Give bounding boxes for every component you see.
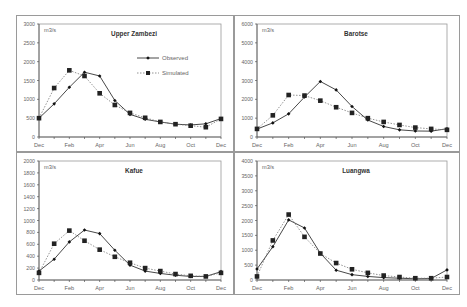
y-tick-label: 500 — [26, 115, 35, 121]
marker-square — [143, 266, 148, 271]
x-tick-label: Oct — [186, 142, 195, 148]
marker-square — [219, 271, 224, 276]
marker-square — [318, 98, 323, 103]
legend: ObservedSimulated — [137, 55, 189, 76]
x-tick-label: Dec — [34, 142, 44, 148]
marker-square — [128, 111, 133, 116]
x-tick-label: Aug — [155, 285, 165, 291]
y-tick-label: 500 — [244, 262, 253, 268]
y-tick-label: 0 — [250, 134, 253, 140]
marker-square — [173, 122, 178, 127]
y-tick-label: 2500 — [241, 203, 253, 209]
y-tick-label: 600 — [26, 241, 35, 247]
chart-panel-luangwa: 05001000150020002500300035004000DecFebAp… — [234, 152, 460, 295]
chart-panel-kafue: 0200400600800100012001400160018002000Dec… — [16, 152, 234, 295]
x-tick-label: Apr — [95, 285, 104, 291]
x-tick-label: Dec — [252, 142, 262, 148]
marker-square — [429, 127, 434, 132]
x-tick-label: Jun — [347, 285, 356, 291]
marker-square — [158, 269, 163, 274]
y-tick-label: 1500 — [23, 78, 35, 84]
y-tick-label: 0 — [250, 277, 253, 283]
marker-square — [429, 276, 434, 281]
unit-label: m3/s — [262, 164, 274, 170]
chart-upper-zambezi: 050010001500200025003000DecFebAprJunAugO… — [17, 16, 235, 153]
series-line-observed — [39, 230, 221, 276]
y-tick-label: 6000 — [241, 21, 253, 27]
legend-observed-icon — [146, 56, 150, 60]
y-tick-label: 800 — [26, 229, 35, 235]
marker-square — [219, 117, 224, 122]
marker-diamond — [445, 268, 449, 272]
y-tick-label: 400 — [26, 253, 35, 259]
marker-square — [143, 115, 148, 120]
x-tick-label: Dec — [442, 142, 452, 148]
y-tick-label: 1200 — [23, 206, 35, 212]
marker-square — [334, 105, 339, 110]
chart-title: Luangwa — [342, 167, 370, 175]
x-tick-label: Dec — [216, 285, 226, 291]
x-tick-label: Dec — [216, 142, 226, 148]
x-tick-label: Jun — [125, 285, 134, 291]
marker-square — [302, 235, 307, 240]
chart-panel-barotse: 0100020003000400050006000DecFebAprJunAug… — [234, 15, 460, 152]
marker-square — [37, 271, 42, 276]
marker-square — [381, 120, 386, 125]
plot-area — [257, 161, 447, 280]
marker-square — [204, 125, 209, 130]
marker-square — [397, 275, 402, 280]
marker-square — [67, 68, 72, 73]
marker-square — [173, 272, 178, 277]
x-tick-label: Oct — [186, 285, 195, 291]
marker-diamond — [382, 125, 386, 129]
marker-square — [445, 128, 450, 133]
x-tick-label: Feb — [284, 142, 294, 148]
legend-simulated-icon — [146, 71, 150, 75]
marker-square — [334, 261, 339, 266]
x-tick-label: Dec — [252, 285, 262, 291]
y-tick-label: 3000 — [241, 78, 253, 84]
y-tick-label: 2500 — [23, 40, 35, 46]
marker-square — [52, 86, 57, 91]
y-tick-label: 2000 — [23, 158, 35, 164]
chart-luangwa: 05001000150020002500300035004000DecFebAp… — [235, 153, 461, 296]
series-line-simulated — [39, 70, 221, 127]
y-tick-label: 1800 — [23, 170, 35, 176]
x-tick-label: Dec — [34, 285, 44, 291]
x-tick-label: Aug — [379, 142, 389, 148]
marker-square — [413, 276, 418, 281]
y-tick-label: 0 — [32, 134, 35, 140]
marker-diamond — [271, 121, 275, 125]
marker-square — [350, 267, 355, 272]
x-tick-label: Jun — [125, 142, 134, 148]
marker-square — [255, 274, 260, 279]
chart-panel-upper-zambezi: 050010001500200025003000DecFebAprJunAugO… — [16, 15, 234, 152]
unit-label: m3/s — [44, 164, 56, 170]
series-line-observed — [39, 72, 221, 125]
y-tick-label: 1000 — [23, 96, 35, 102]
marker-square — [204, 274, 209, 279]
x-tick-label: Feb — [284, 285, 294, 291]
y-tick-label: 1000 — [241, 247, 253, 253]
y-tick-label: 0 — [32, 277, 35, 283]
marker-square — [445, 275, 450, 280]
x-tick-label: Oct — [411, 285, 420, 291]
marker-square — [381, 273, 386, 278]
chart-title: Upper Zambezi — [111, 30, 157, 38]
marker-square — [82, 238, 87, 243]
y-tick-label: 4000 — [241, 59, 253, 65]
x-tick-label: Feb — [65, 142, 75, 148]
marker-square — [128, 260, 133, 265]
marker-square — [37, 116, 42, 121]
marker-square — [366, 116, 371, 121]
y-tick-label: 1600 — [23, 182, 35, 188]
marker-square — [397, 123, 402, 128]
marker-diamond — [366, 275, 370, 279]
y-tick-label: 200 — [26, 265, 35, 271]
marker-square — [271, 113, 276, 118]
marker-square — [302, 93, 307, 98]
plot-area — [257, 24, 447, 137]
marker-square — [67, 228, 72, 233]
marker-square — [366, 271, 371, 276]
marker-square — [82, 74, 87, 79]
